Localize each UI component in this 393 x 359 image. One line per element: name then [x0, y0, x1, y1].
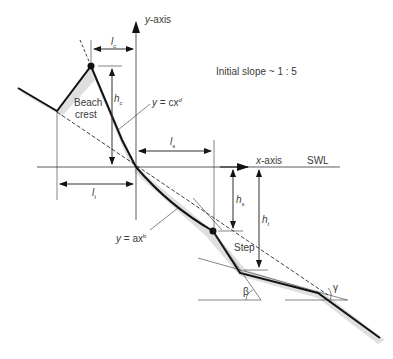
swl-label: SWL [307, 156, 329, 166]
step-curve-equation: y = axb [116, 233, 146, 244]
gamma-label: γ [333, 283, 338, 293]
y-axis-label: yy-axis-axis [145, 15, 171, 25]
crest-point [88, 63, 95, 70]
step-eq-leader [150, 208, 178, 230]
beach-crest-label-line2: crest [75, 110, 97, 120]
beta-label: β [243, 287, 249, 297]
ls-label: ls [170, 137, 175, 149]
step-label: Step [234, 243, 255, 253]
initial-slope-line [57, 112, 328, 295]
lt-label: lt [92, 188, 96, 200]
lc-label: lc [111, 37, 116, 49]
ht-label: ht [262, 215, 269, 227]
x-axis-label: x-axis [256, 156, 282, 166]
hs-label: hs [236, 195, 245, 207]
gamma-slope-line [198, 258, 347, 300]
crest-eq-leader [118, 104, 150, 130]
initial-slope-note: Initial slope ~ 1 : 5 [216, 67, 297, 77]
step-point [210, 228, 217, 235]
hc-label: hc [114, 94, 123, 106]
crest-extension-line [80, 40, 91, 66]
beach-profile-diagram [0, 0, 393, 359]
crest-curve-equation: y = cxd [152, 97, 182, 108]
beach-crest-label-line1: Beach [74, 98, 102, 108]
